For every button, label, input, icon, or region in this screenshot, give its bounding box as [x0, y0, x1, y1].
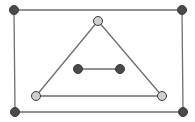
edge-triangle-apex-to-triangle-bottom-left	[36, 21, 98, 96]
edge-triangle-bottom-right-to-triangle-apex	[98, 21, 162, 96]
node-outer-top-right	[178, 6, 187, 15]
graph-diagram	[0, 0, 195, 122]
node-triangle-bottom-right	[158, 92, 167, 101]
node-triangle-apex	[94, 17, 103, 26]
edge-outer-top-right-to-outer-bottom-right	[182, 10, 183, 112]
node-inner-left	[74, 65, 83, 74]
node-inner-right	[116, 65, 125, 74]
node-triangle-bottom-left	[32, 92, 41, 101]
node-outer-top-left	[10, 6, 19, 15]
node-outer-bottom-right	[179, 108, 188, 117]
node-outer-bottom-left	[11, 108, 20, 117]
edge-outer-bottom-left-to-outer-top-left	[14, 10, 15, 112]
node-layer	[10, 6, 188, 117]
